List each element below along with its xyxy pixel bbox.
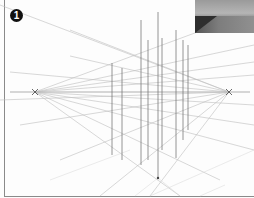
photo-thumbnail [195, 0, 254, 33]
bottom-point-marker [157, 177, 159, 179]
step-number-badge: 1 [10, 9, 23, 22]
drawing-page: 1 [0, 0, 254, 198]
ground-lines [50, 150, 254, 196]
photo-shadow-wedge [195, 16, 217, 33]
right-vp-rays [0, 5, 229, 196]
left-vp-rays [35, 20, 254, 196]
